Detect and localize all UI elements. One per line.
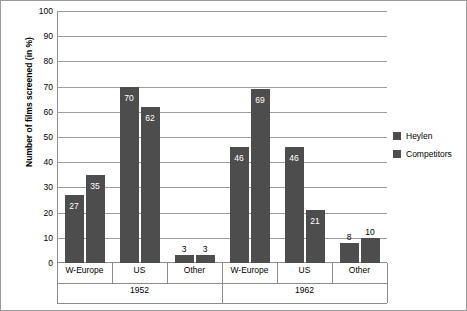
bar-value-label: 70 bbox=[115, 93, 143, 103]
gridline bbox=[57, 61, 387, 62]
bar-value-label: 46 bbox=[225, 153, 253, 163]
legend-label: Competitors bbox=[406, 149, 452, 159]
y-axis-tick-label: 0 bbox=[13, 259, 53, 267]
legend-item-competitors: Competitors bbox=[393, 149, 452, 159]
y-axis-tick-label: 90 bbox=[13, 32, 53, 40]
bar-value-label: 3 bbox=[191, 244, 219, 254]
bar-value-label: 27 bbox=[60, 201, 88, 211]
legend-label: Heylen bbox=[406, 131, 432, 141]
x-axis-group-label: 1952 bbox=[57, 285, 222, 295]
y-axis-tick-label: 60 bbox=[13, 108, 53, 116]
y-axis-tick-label: 10 bbox=[13, 234, 53, 242]
axis-separator bbox=[387, 263, 388, 283]
x-axis-category-label: Other bbox=[326, 265, 394, 275]
axis-separator bbox=[112, 263, 113, 283]
axis-separator bbox=[332, 263, 333, 283]
axis-separator bbox=[57, 283, 58, 303]
bar-value-label: 21 bbox=[301, 216, 329, 226]
bar-value-label: 46 bbox=[280, 153, 308, 163]
gridline bbox=[57, 137, 387, 138]
bar bbox=[230, 147, 249, 263]
axis-separator bbox=[222, 263, 223, 283]
legend-swatch-icon bbox=[393, 132, 401, 140]
gridline bbox=[57, 162, 387, 163]
gridline bbox=[57, 11, 387, 12]
bar-value-label: 69 bbox=[246, 95, 274, 105]
y-axis-tick-label: 100 bbox=[13, 7, 53, 15]
gridline bbox=[57, 112, 387, 113]
bar bbox=[285, 147, 304, 263]
axis-separator bbox=[277, 263, 278, 283]
bar bbox=[141, 107, 160, 263]
y-axis-tick-label: 40 bbox=[13, 158, 53, 166]
y-axis-tick-label: 30 bbox=[13, 183, 53, 191]
y-axis-tick-label: 50 bbox=[13, 133, 53, 141]
gridline bbox=[57, 87, 387, 88]
x-axis-groups: 19521962 bbox=[57, 283, 387, 303]
bar bbox=[196, 255, 215, 263]
bar-value-label: 62 bbox=[136, 113, 164, 123]
axis-separator bbox=[167, 263, 168, 283]
y-axis-tick-label: 70 bbox=[13, 83, 53, 91]
y-axis-tick-label: 80 bbox=[13, 57, 53, 65]
axis-separator bbox=[57, 263, 58, 283]
legend-item-heylen: Heylen bbox=[393, 131, 452, 141]
bar bbox=[175, 255, 194, 263]
axis-separator bbox=[387, 283, 388, 303]
legend-swatch-icon bbox=[393, 150, 401, 158]
bar bbox=[361, 238, 380, 263]
x-axis-categories: W-EuropeUSOtherW-EuropeUSOther bbox=[57, 263, 387, 283]
axis-separator bbox=[222, 283, 223, 303]
gridline bbox=[57, 213, 387, 214]
bar-value-label: 10 bbox=[356, 227, 384, 237]
chart-frame: Number of films screened (in %) 01020304… bbox=[0, 0, 467, 311]
axis-line bbox=[57, 303, 387, 304]
x-axis-group-label: 1962 bbox=[222, 285, 387, 295]
legend: Heylen Competitors bbox=[393, 131, 452, 167]
gridline bbox=[57, 36, 387, 37]
plot-area: 0102030405060708090100 27357062334669462… bbox=[57, 11, 387, 263]
bar bbox=[251, 89, 270, 263]
bar bbox=[340, 243, 359, 263]
bar-value-label: 35 bbox=[81, 181, 109, 191]
y-axis-tick-label: 20 bbox=[13, 209, 53, 217]
